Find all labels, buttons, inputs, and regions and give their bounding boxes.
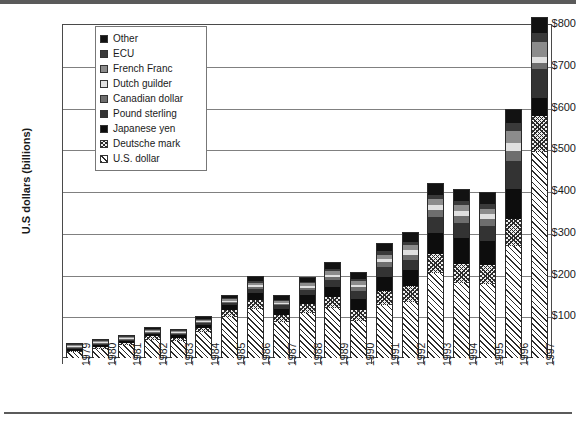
bar-segment-japanese-yen <box>479 241 496 265</box>
bar-segment-deutsche-mark <box>479 265 496 283</box>
x-tick-mark <box>217 358 218 364</box>
bar-segment-ecu <box>531 33 548 42</box>
x-tick-mark <box>526 358 527 364</box>
legend-swatch-icon <box>100 155 108 163</box>
legend-item-deutsche-mark[interactable]: Deutsche mark <box>100 136 201 151</box>
legend-label: French Franc <box>113 63 172 74</box>
bar-segment-other <box>427 183 444 196</box>
legend-swatch-icon <box>100 80 108 88</box>
x-label-1994: 1994 <box>467 306 479 366</box>
x-tick-mark <box>191 358 192 364</box>
x-tick-mark <box>320 358 321 364</box>
x-label-1993: 1993 <box>441 306 453 366</box>
x-tick-mark <box>423 358 424 364</box>
bar-segment-other <box>376 243 393 251</box>
x-label-1983: 1983 <box>183 306 195 366</box>
legend-item-ecu[interactable]: ECU <box>100 46 201 61</box>
x-tick-mark <box>294 358 295 364</box>
bar-segment-pound-sterling <box>453 223 470 238</box>
legend-swatch-icon <box>100 140 108 148</box>
legend-label: Deutsche mark <box>113 138 180 149</box>
bar-segment-japanese-yen <box>299 295 316 303</box>
bar-segment-deutsche-mark <box>427 254 444 272</box>
x-label-1988: 1988 <box>312 306 324 366</box>
bar-segment-deutsche-mark <box>402 286 419 302</box>
legend-item-pound-sterling[interactable]: Pound sterling <box>100 106 201 121</box>
x-label-1979: 1979 <box>80 306 92 366</box>
legend-item-canadian-dollar[interactable]: Canadian dollar <box>100 91 201 106</box>
x-tick-mark <box>552 358 553 364</box>
bar-segment-other <box>505 109 522 122</box>
legend-item-dutch-guilder[interactable]: Dutch guilder <box>100 76 201 91</box>
bar-segment-pound-sterling <box>505 161 522 189</box>
bar-segment-japanese-yen <box>376 277 393 291</box>
bar-segment-canadian-dollar <box>453 216 470 223</box>
bar-segment-pound-sterling <box>479 226 496 241</box>
x-label-1995: 1995 <box>493 306 505 366</box>
legend-label: U.S. dollar <box>113 153 160 164</box>
bar-segment-canadian-dollar <box>505 151 522 161</box>
legend-item-u-s-dollar[interactable]: U.S. dollar <box>100 151 201 166</box>
x-tick-mark <box>114 358 115 364</box>
legend-label: Other <box>113 33 138 44</box>
bar-segment-japanese-yen <box>247 293 264 301</box>
x-tick-mark <box>397 358 398 364</box>
x-label-1997: 1997 <box>544 306 556 366</box>
legend-swatch-icon <box>100 65 108 73</box>
x-tick-mark <box>62 358 63 364</box>
bar-segment-pound-sterling <box>350 291 367 299</box>
x-label-1981: 1981 <box>131 306 143 366</box>
legend-swatch-icon <box>100 95 108 103</box>
bar-segment-deutsche-mark <box>376 291 393 305</box>
bar-segment-pound-sterling <box>427 217 444 233</box>
bar-segment-dutch-guilder <box>505 143 522 151</box>
legend-label: Pound sterling <box>113 108 177 119</box>
legend-label: Canadian dollar <box>113 93 183 104</box>
bar-segment-deutsche-mark <box>505 219 522 247</box>
x-label-1989: 1989 <box>338 306 350 366</box>
bar-segment-other <box>324 262 341 269</box>
x-tick-mark <box>500 358 501 364</box>
stacked-bar-chart: U.S dollars (billions) $800$700$600$500$… <box>0 0 576 423</box>
x-tick-mark <box>139 358 140 364</box>
bar-segment-canadian-dollar <box>427 210 444 217</box>
x-tick-mark <box>346 358 347 364</box>
bar-segment-japanese-yen <box>402 270 419 286</box>
bar-segment-french-franc <box>505 131 522 144</box>
bar-segment-pound-sterling <box>531 69 548 98</box>
bar-segment-deutsche-mark <box>531 116 548 152</box>
bar-segment-ecu <box>505 123 522 131</box>
x-label-1985: 1985 <box>235 306 247 366</box>
bar-segment-japanese-yen <box>453 238 470 264</box>
bar-segment-other <box>453 189 470 202</box>
x-label-1982: 1982 <box>157 306 169 366</box>
legend-swatch-icon <box>100 35 108 43</box>
bar-segment-japanese-yen <box>427 233 444 255</box>
x-tick-mark <box>243 358 244 364</box>
x-tick-mark <box>88 358 89 364</box>
x-label-1992: 1992 <box>415 306 427 366</box>
x-label-1984: 1984 <box>209 306 221 366</box>
legend-label: ECU <box>113 48 134 59</box>
bar-segment-japanese-yen <box>324 287 341 297</box>
x-label-1987: 1987 <box>286 306 298 366</box>
legend-item-other[interactable]: Other <box>100 31 201 46</box>
bar-segment-other <box>350 272 367 279</box>
bar-segment-other <box>402 232 419 242</box>
legend-item-japanese-yen[interactable]: Japanese yen <box>100 121 201 136</box>
legend-item-french-franc[interactable]: French Franc <box>100 61 201 76</box>
y-axis-title: U.S dollars (billions) <box>20 101 32 261</box>
x-label-1986: 1986 <box>260 306 272 366</box>
legend-label: Dutch guilder <box>113 78 172 89</box>
x-label-1980: 1980 <box>106 306 118 366</box>
legend-swatch-icon <box>100 110 108 118</box>
x-tick-mark <box>371 358 372 364</box>
legend-swatch-icon <box>100 125 108 133</box>
bar-segment-french-franc <box>531 42 548 56</box>
x-tick-mark <box>165 358 166 364</box>
x-label-1991: 1991 <box>389 306 401 366</box>
x-tick-mark <box>449 358 450 364</box>
bar-segment-japanese-yen <box>531 98 548 116</box>
bar-segment-pound-sterling <box>402 260 419 271</box>
legend-swatch-icon <box>100 50 108 58</box>
